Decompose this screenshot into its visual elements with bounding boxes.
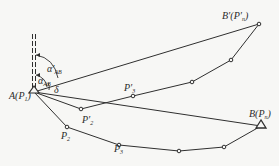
label-delta: δ xyxy=(54,84,59,95)
point-B-prime xyxy=(257,22,261,26)
label-P2: P2 xyxy=(60,130,70,142)
original-traverse xyxy=(34,92,261,151)
label-B-prime: B′(P′n) xyxy=(222,10,249,22)
label-A: A(P1) xyxy=(8,90,32,102)
point-P4 xyxy=(177,149,181,153)
label-P3-prime: P′3 xyxy=(123,82,135,94)
line-A-Bprime xyxy=(34,24,259,92)
alpha-prime-arrowhead xyxy=(36,53,40,57)
control-point-B-triangle xyxy=(256,120,266,128)
label-P2-prime: P′2 xyxy=(81,114,93,126)
label-alpha-ab: αAB xyxy=(38,75,51,87)
label-alpha-prime-ab: α′AB xyxy=(47,63,62,75)
traverse-diagram: α′AB αAB δ A(P1) B′(P′n) B(Pn) P′3 P′2 P… xyxy=(0,0,279,166)
point-P3-prime xyxy=(131,94,135,98)
point-P5 xyxy=(222,145,226,149)
point-P4-prime xyxy=(190,80,194,84)
point-P2-prime xyxy=(79,107,83,111)
point-P2 xyxy=(65,125,69,129)
rotated-traverse xyxy=(34,24,259,109)
north-direction-line xyxy=(33,34,36,88)
point-P5-prime xyxy=(229,58,233,62)
label-B: B(Pn) xyxy=(249,108,272,120)
line-A-B xyxy=(34,92,261,126)
